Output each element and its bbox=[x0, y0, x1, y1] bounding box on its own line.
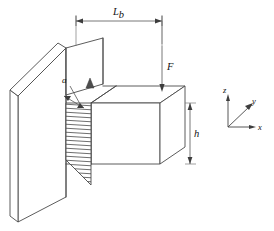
axis-y-label: y bbox=[251, 96, 256, 106]
wall-front-face bbox=[18, 48, 66, 222]
height-arrow-top bbox=[188, 103, 193, 110]
span-arrow-left bbox=[76, 18, 83, 23]
height-dimension: h bbox=[185, 103, 199, 164]
beam-front-face bbox=[91, 103, 160, 164]
height-arrow-bottom bbox=[188, 157, 193, 164]
axis-arrow-right-icon bbox=[249, 125, 256, 129]
force-label: F bbox=[166, 61, 174, 72]
wall-upper-right-face bbox=[66, 38, 103, 95]
axis-x-label: x bbox=[257, 122, 262, 132]
crack-face bbox=[66, 103, 91, 185]
span-label: Lb bbox=[112, 6, 124, 20]
axis-z-label: z bbox=[222, 85, 227, 95]
cantilever-crack-diagram: a Lb F bbox=[0, 0, 274, 231]
wall-left-side-face bbox=[10, 90, 18, 222]
axis-arrow-up-icon bbox=[226, 94, 230, 101]
force-indicator: F bbox=[159, 21, 174, 92]
height-label: h bbox=[194, 128, 199, 139]
axis-y-line bbox=[228, 106, 250, 127]
figure-canvas: a Lb F bbox=[0, 0, 274, 231]
span-arrow-right bbox=[155, 18, 162, 23]
span-dimension: Lb bbox=[76, 6, 162, 46]
crack-region bbox=[62, 103, 95, 186]
span-label-subscript: b bbox=[119, 9, 124, 20]
coordinate-axes: z y x bbox=[222, 85, 262, 132]
crack-label: a bbox=[62, 75, 67, 85]
